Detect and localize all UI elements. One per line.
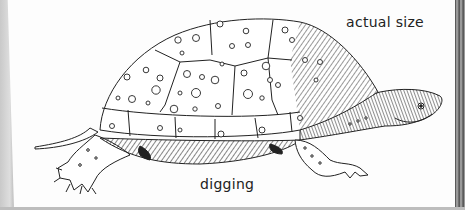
digging-caption: digging: [200, 176, 254, 192]
illustration-page: actual size digging: [0, 0, 465, 210]
underside: [100, 138, 300, 164]
actual-size-label: actual size: [346, 14, 424, 30]
front-leg: [295, 140, 368, 178]
